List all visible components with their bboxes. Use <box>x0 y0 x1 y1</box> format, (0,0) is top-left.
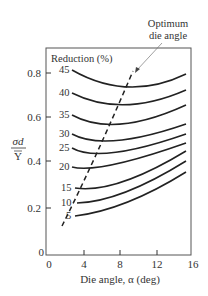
x-tick-label: 4 <box>81 258 87 270</box>
curve-label-30: 30 <box>59 128 70 139</box>
curve-label-15: 15 <box>61 182 72 193</box>
x-tick-label: 12 <box>152 258 163 270</box>
y-ticks <box>46 73 51 208</box>
curve-label-35: 35 <box>59 109 70 120</box>
x-tick-label: 8 <box>117 258 123 270</box>
y-axis-label-numerator: σd <box>13 135 24 147</box>
curve-label-25: 25 <box>59 142 70 153</box>
curve-15 <box>75 151 186 189</box>
curve-25 <box>72 134 186 154</box>
curve-label-40: 40 <box>59 87 70 98</box>
curve-labels: 45 40 35 30 25 20 15 10 5 <box>59 64 72 221</box>
curve-label-45: 45 <box>59 64 70 75</box>
x-tick-label: 16 <box>188 258 200 270</box>
x-tick-label: 0 <box>46 258 52 270</box>
annotation-line1: Optimum <box>148 18 188 29</box>
curve-35 <box>72 105 186 124</box>
annotation-arrow <box>137 43 162 70</box>
curve-30 <box>72 124 186 141</box>
y-tick-label: 0 <box>39 246 45 258</box>
y-tick-label: 0.4 <box>27 155 41 167</box>
x-ticks <box>84 250 157 255</box>
annotation-line2: die angle <box>149 30 188 41</box>
curve-label-10: 10 <box>61 197 72 208</box>
y-tick-label: 0.2 <box>27 202 41 214</box>
y-axis-label-denominator: Y <box>14 150 22 162</box>
chart: 0.8 0.6 0.4 0.2 0 0 4 8 12 16 Die angle,… <box>0 0 208 296</box>
y-tick-label: 0.8 <box>27 67 41 79</box>
reduction-curves <box>72 70 186 216</box>
curve-label-20: 20 <box>59 161 70 172</box>
x-axis-label: Die angle, α (deg) <box>80 273 160 286</box>
curve-20 <box>72 143 186 168</box>
y-tick-label: 0.6 <box>27 111 41 123</box>
curve-40 <box>72 90 186 105</box>
